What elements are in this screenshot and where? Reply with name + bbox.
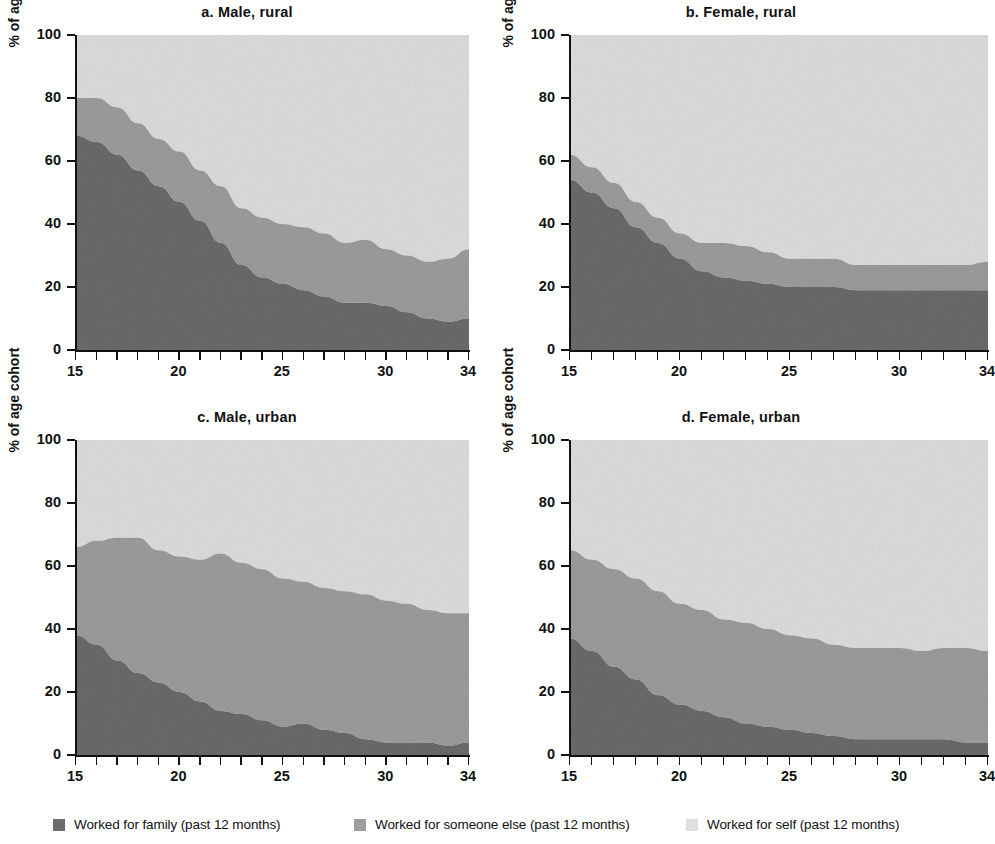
x-tick-mark	[323, 351, 324, 360]
y-tick-mark	[67, 223, 75, 225]
x-tick-mark	[965, 351, 966, 360]
x-tick-mark	[701, 756, 702, 765]
x-tick-label: 15	[67, 768, 83, 784]
x-tick-label: 30	[891, 363, 907, 379]
y-tick-mark	[561, 349, 569, 351]
panel-d-plot-area	[570, 440, 988, 755]
y-tick-mark	[561, 439, 569, 441]
x-tick-label: 15	[561, 768, 577, 784]
x-tick-mark	[811, 351, 812, 360]
panel-a-x-ticks: 1520253034	[75, 351, 468, 361]
x-tick-mark	[987, 351, 988, 360]
y-tick-label: 100	[509, 432, 555, 447]
x-tick-mark	[137, 756, 138, 765]
x-tick-mark	[657, 756, 658, 765]
x-tick-mark	[855, 756, 856, 765]
panel-a-plot-area	[76, 35, 469, 350]
y-tick-label: 20	[509, 684, 555, 699]
panel-d-area-svg	[570, 440, 988, 755]
panel-a-area-svg	[76, 35, 469, 350]
x-tick-mark	[116, 756, 117, 765]
x-tick-label: 30	[377, 768, 393, 784]
x-tick-mark	[282, 756, 283, 765]
x-tick-mark	[137, 351, 138, 360]
x-tick-mark	[344, 351, 345, 360]
y-tick-mark	[67, 160, 75, 162]
x-tick-mark	[811, 756, 812, 765]
x-tick-label: 30	[377, 363, 393, 379]
x-tick-mark	[365, 351, 366, 360]
y-tick-mark	[561, 34, 569, 36]
legend-label-family: Worked for family (past 12 months)	[74, 817, 280, 832]
panel-d-y-axis: 020406080100	[494, 405, 569, 805]
x-tick-mark	[468, 756, 469, 765]
x-tick-mark	[178, 756, 179, 765]
x-tick-mark	[877, 351, 878, 360]
x-tick-mark	[406, 351, 407, 360]
x-tick-mark	[833, 351, 834, 360]
x-tick-mark	[723, 351, 724, 360]
x-tick-mark	[591, 756, 592, 765]
x-tick-mark	[569, 351, 570, 360]
panel-c-y-axis: 020406080100	[0, 405, 75, 805]
y-tick-label: 100	[15, 432, 61, 447]
x-tick-label: 25	[274, 768, 290, 784]
x-tick-mark	[701, 351, 702, 360]
x-tick-mark	[613, 756, 614, 765]
x-tick-mark	[921, 351, 922, 360]
x-tick-mark	[468, 351, 469, 360]
legend-label-self: Worked for self (past 12 months)	[707, 817, 899, 832]
x-tick-mark	[833, 756, 834, 765]
panel-b-area-svg	[570, 35, 988, 350]
y-tick-mark	[67, 502, 75, 504]
x-tick-mark	[635, 756, 636, 765]
x-tick-mark	[344, 756, 345, 765]
x-tick-label: 34	[979, 363, 995, 379]
x-tick-mark	[75, 756, 76, 765]
y-tick-label: 100	[509, 27, 555, 42]
x-tick-mark	[75, 351, 76, 360]
x-tick-mark	[116, 351, 117, 360]
x-tick-mark	[220, 756, 221, 765]
y-tick-mark	[67, 349, 75, 351]
y-tick-mark	[67, 628, 75, 630]
x-tick-label: 20	[671, 363, 687, 379]
y-tick-label: 80	[15, 90, 61, 105]
y-tick-label: 80	[509, 495, 555, 510]
y-tick-label: 20	[509, 279, 555, 294]
panel-d-x-ticks: 1520253034	[569, 756, 987, 766]
y-tick-mark	[67, 691, 75, 693]
x-tick-label: 25	[781, 363, 797, 379]
legend-swatch-family-icon	[53, 819, 65, 831]
y-tick-label: 40	[15, 621, 61, 636]
y-tick-label: 20	[15, 684, 61, 699]
y-tick-label: 80	[509, 90, 555, 105]
x-tick-mark	[406, 756, 407, 765]
x-tick-mark	[855, 351, 856, 360]
y-tick-mark	[561, 286, 569, 288]
panel-a-axis-line-vertical	[75, 35, 77, 351]
y-tick-label: 40	[509, 216, 555, 231]
x-tick-label: 34	[460, 768, 476, 784]
y-tick-label: 80	[15, 495, 61, 510]
y-tick-mark	[67, 754, 75, 756]
y-tick-mark	[67, 439, 75, 441]
panel-b-x-ticks: 1520253034	[569, 351, 987, 361]
x-tick-mark	[261, 351, 262, 360]
y-tick-mark	[561, 691, 569, 693]
y-tick-label: 60	[15, 153, 61, 168]
legend: Worked for family (past 12 months) Worke…	[0, 812, 988, 844]
x-tick-mark	[723, 756, 724, 765]
x-tick-mark	[240, 351, 241, 360]
x-tick-mark	[679, 351, 680, 360]
legend-swatch-someone-else-icon	[354, 819, 366, 831]
x-tick-mark	[240, 756, 241, 765]
y-tick-label: 100	[15, 27, 61, 42]
x-tick-mark	[657, 351, 658, 360]
panel-c-male-urban: c. Male, urban % of age cohort 020406080…	[0, 405, 494, 810]
x-tick-mark	[789, 351, 790, 360]
y-tick-label: 60	[509, 153, 555, 168]
legend-label-someone-else: Worked for someone else (past 12 months)	[375, 817, 630, 832]
y-tick-label: 40	[15, 216, 61, 231]
x-tick-mark	[569, 756, 570, 765]
